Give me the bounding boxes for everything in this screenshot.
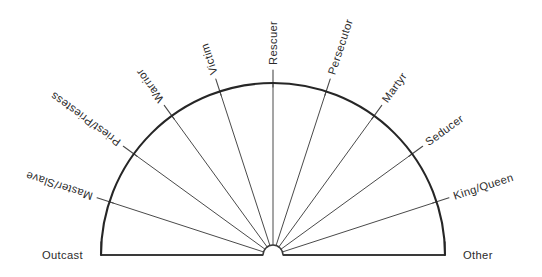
label-victim: Victim (198, 42, 219, 76)
label-master-slave: Master/Slave (24, 169, 94, 202)
semicircle-fan-diagram: OutcastMaster/SlavePriest/PriestessWarri… (0, 0, 542, 277)
label-persecutor: Persecutor (326, 18, 355, 76)
label-priest-priestess: Priest/Priestess (48, 90, 122, 149)
label-martyr: Martyr (380, 70, 410, 104)
label-king-queen: King/Queen (452, 171, 515, 202)
label-rescuer: Rescuer (267, 21, 279, 65)
diagram-canvas: OutcastMaster/SlavePriest/PriestessWarri… (0, 0, 542, 277)
label-seducer: Seducer (423, 112, 466, 148)
label-other: Other (463, 249, 493, 261)
label-outcast: Outcast (42, 249, 84, 261)
center-hub-arc (263, 245, 283, 255)
spokes-group (109, 83, 436, 252)
label-warrior: Warrior (133, 67, 165, 105)
